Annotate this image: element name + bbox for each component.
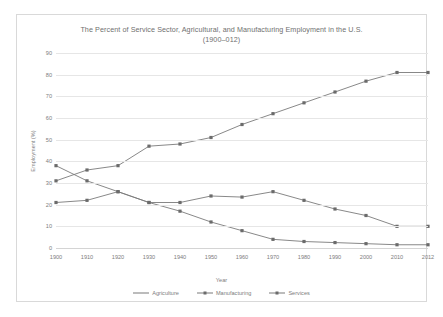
legend-item[interactable]: Agriculture	[133, 290, 179, 296]
data-point-marker	[85, 168, 88, 171]
series-line	[56, 73, 428, 181]
x-axis-tick: 1980	[298, 254, 310, 260]
data-point-marker	[116, 190, 119, 193]
plot-area: 0102030405060708090190019101920193019401…	[56, 53, 428, 248]
gridline	[56, 248, 428, 249]
x-axis-title: Year	[17, 277, 426, 283]
chart-title-block: The Percent of Service Sector, Agricultu…	[17, 25, 426, 45]
data-point-marker	[302, 101, 305, 104]
data-point-marker	[333, 207, 336, 210]
gridline	[56, 226, 428, 227]
gridline	[56, 161, 428, 162]
legend-label: Agriculture	[152, 290, 179, 296]
chart-screenshot: The Percent of Service Sector, Agricultu…	[0, 0, 443, 317]
legend-label: Services	[288, 290, 309, 296]
y-axis-tick: 70	[46, 93, 52, 99]
y-axis-tick: 90	[46, 50, 52, 56]
y-axis-tick: 0	[49, 245, 52, 251]
gridline	[56, 183, 428, 184]
data-point-marker	[271, 238, 274, 241]
data-point-marker	[302, 199, 305, 202]
data-point-marker	[240, 123, 243, 126]
gridline	[56, 53, 428, 54]
x-axis-tick: 1960	[236, 254, 248, 260]
chart-subtitle: (1900–012)	[17, 35, 426, 45]
data-point-marker	[395, 71, 398, 74]
legend-item[interactable]: Services	[269, 290, 309, 296]
chart-title: The Percent of Service Sector, Agricultu…	[17, 25, 426, 35]
data-point-marker	[209, 136, 212, 139]
data-point-marker	[147, 145, 150, 148]
data-point-marker	[271, 112, 274, 115]
x-axis-tick: 2000	[360, 254, 372, 260]
data-point-marker	[426, 71, 429, 74]
data-point-marker	[364, 214, 367, 217]
x-axis-tick: 1940	[174, 254, 186, 260]
data-point-marker	[240, 195, 243, 198]
data-point-marker	[426, 243, 429, 246]
data-point-marker	[209, 220, 212, 223]
y-axis-tick: 10	[46, 223, 52, 229]
series-lines	[56, 53, 428, 248]
data-point-marker	[333, 241, 336, 244]
x-axis-tick: 2012	[422, 254, 434, 260]
data-point-marker	[147, 201, 150, 204]
data-point-marker	[85, 179, 88, 182]
gridline	[56, 75, 428, 76]
gridline	[56, 118, 428, 119]
legend-item[interactable]: Manufacturing	[197, 290, 251, 296]
data-point-marker	[302, 240, 305, 243]
legend-swatch-icon	[197, 290, 213, 296]
data-point-marker	[395, 243, 398, 246]
y-axis-tick: 40	[46, 158, 52, 164]
x-axis-tick: 1900	[50, 254, 62, 260]
x-axis-tick: 1970	[267, 254, 279, 260]
chart-frame: The Percent of Service Sector, Agricultu…	[16, 14, 427, 302]
data-point-marker	[54, 179, 57, 182]
data-point-marker	[240, 229, 243, 232]
chart-legend: AgricultureManufacturingServices	[17, 290, 426, 296]
legend-swatch-icon	[269, 290, 285, 296]
gridline	[56, 140, 428, 141]
x-axis-tick: 1950	[205, 254, 217, 260]
gridline	[56, 205, 428, 206]
x-axis-tick: 1910	[81, 254, 93, 260]
x-axis-tick: 1930	[143, 254, 155, 260]
data-point-marker	[333, 90, 336, 93]
y-axis-tick: 50	[46, 137, 52, 143]
data-point-marker	[116, 164, 119, 167]
y-axis-tick: 30	[46, 180, 52, 186]
data-point-marker	[364, 242, 367, 245]
x-axis-tick: 1990	[329, 254, 341, 260]
y-axis-tick: 80	[46, 72, 52, 78]
data-point-marker	[85, 199, 88, 202]
legend-label: Manufacturing	[216, 290, 251, 296]
data-point-marker	[178, 142, 181, 145]
data-point-marker	[178, 201, 181, 204]
gridline	[56, 96, 428, 97]
data-point-marker	[271, 190, 274, 193]
y-axis-tick: 60	[46, 115, 52, 121]
data-point-marker	[364, 80, 367, 83]
data-point-marker	[209, 194, 212, 197]
x-axis-tick: 2010	[391, 254, 403, 260]
data-point-marker	[54, 164, 57, 167]
x-axis-tick: 1920	[112, 254, 124, 260]
legend-swatch-icon	[133, 290, 149, 296]
data-point-marker	[178, 210, 181, 213]
y-axis-title: Employment (%)	[30, 130, 36, 171]
data-point-marker	[54, 201, 57, 204]
y-axis-tick: 20	[46, 202, 52, 208]
